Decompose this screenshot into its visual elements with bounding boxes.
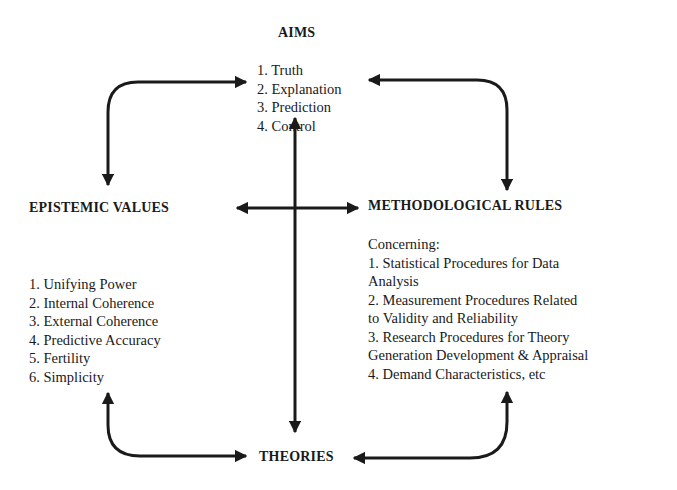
- epistemic-item: 1. Unifying Power: [29, 275, 161, 294]
- epistemic-item: 5. Fertility: [29, 349, 161, 368]
- epistemic-item: 3. External Coherence: [29, 312, 161, 331]
- epistemic-values-list: 1. Unifying Power 2. Internal Coherence …: [29, 275, 161, 386]
- methodological-item-cont: to Validity and Reliability: [368, 309, 588, 328]
- epistemic-item: 6. Simplicity: [29, 368, 161, 387]
- arrow-epistemic-theories: [108, 393, 246, 456]
- methodological-item: 2. Measurement Procedures Related: [368, 291, 588, 310]
- aims-item: 3. Prediction: [257, 98, 342, 117]
- aims-title: AIMS: [278, 25, 315, 41]
- aims-item: 4. Control: [257, 117, 342, 136]
- aims-item: 1. Truth: [257, 61, 342, 80]
- methodological-item: 3. Research Procedures for Theory: [368, 328, 588, 347]
- epistemic-item: 2. Internal Coherence: [29, 294, 161, 313]
- epistemic-item: 4. Predictive Accuracy: [29, 331, 161, 350]
- methodological-intro: Concerning:: [368, 235, 588, 254]
- theories-title: THEORIES: [259, 449, 334, 465]
- methodological-rules-title: METHODOLOGICAL RULES: [368, 198, 562, 214]
- methodological-item: 4. Demand Characteristics, etc: [368, 365, 588, 384]
- arrow-aims-methodological: [369, 80, 507, 190]
- aims-list: 1. Truth 2. Explanation 3. Prediction 4.…: [257, 61, 342, 135]
- aims-item: 2. Explanation: [257, 80, 342, 99]
- methodological-item: 1. Statistical Procedures for Data: [368, 254, 588, 273]
- epistemic-values-title: EPISTEMIC VALUES: [29, 200, 169, 216]
- methodological-item-cont: Analysis: [368, 272, 588, 291]
- arrow-methodological-theories: [354, 392, 507, 458]
- methodological-item-cont: Generation Development & Appraisal: [368, 346, 588, 365]
- methodological-rules-list: Concerning: 1. Statistical Procedures fo…: [368, 235, 588, 383]
- arrow-aims-epistemic: [108, 82, 246, 185]
